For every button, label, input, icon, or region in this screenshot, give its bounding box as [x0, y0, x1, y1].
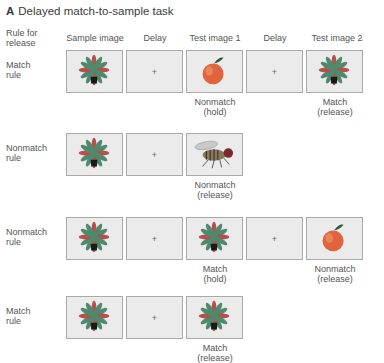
response-caption: Nonmatch(release) [300, 264, 370, 284]
rule-label-line: rule [6, 153, 47, 163]
stimulus-box-plant-image [66, 50, 123, 93]
col-header-test-2: Test image 2 [306, 33, 368, 43]
response-caption: Match(release) [180, 343, 250, 363]
col-header-delay-1: Delay [126, 33, 184, 43]
stimulus-box-fixation-cross: + [126, 217, 183, 260]
col-header-delay-2: Delay [246, 33, 304, 43]
stimulus-box-plant-image [66, 296, 123, 339]
fixation-cross-icon: + [152, 66, 157, 76]
stimulus-box-apple-image [186, 50, 243, 93]
caption-line: (hold) [180, 107, 250, 117]
rule-label-line: Nonmatch [6, 227, 47, 237]
rule-label: Matchrule [6, 306, 31, 326]
caption-line: (hold) [180, 274, 250, 284]
response-caption: Match(hold) [180, 264, 250, 284]
stimulus-box-apple-image [306, 217, 363, 260]
caption-line: (release) [300, 274, 370, 284]
rule-label: Nonmatchrule [6, 143, 47, 163]
stimulus-box-fixation-cross: + [246, 217, 303, 260]
rule-label-line: rule [6, 316, 31, 326]
caption-line: (release) [180, 190, 250, 200]
stimulus-box-plant-image [306, 50, 363, 93]
caption-line: Match [180, 343, 250, 353]
response-caption: Nonmatch(hold) [180, 97, 250, 117]
stimulus-box-fixation-cross: + [126, 133, 183, 176]
caption-line: (release) [300, 107, 370, 117]
rule-header-line: Rule for [6, 28, 38, 38]
rule-header: Rule for release [6, 28, 38, 48]
stimulus-box-plant-image [66, 133, 123, 176]
stimulus-box-plant-image [186, 217, 243, 260]
rule-label: Nonmatchrule [6, 227, 47, 247]
caption-line: Nonmatch [180, 180, 250, 190]
title-text: Delayed match-to-sample task [18, 5, 173, 17]
rule-label-line: rule [6, 237, 47, 247]
stimulus-box-fixation-cross: + [246, 50, 303, 93]
response-caption: Match(release) [300, 97, 370, 117]
caption-line: Match [180, 264, 250, 274]
stimulus-box-fixation-cross: + [126, 296, 183, 339]
stimulus-box-plant-image [186, 296, 243, 339]
col-header-test-1: Test image 1 [186, 33, 244, 43]
fixation-cross-icon: + [152, 312, 157, 322]
rule-label-line: Match [6, 306, 31, 316]
rule-label-line: rule [6, 70, 31, 80]
fixation-cross-icon: + [152, 233, 157, 243]
figure-title: ADelayed match-to-sample task [6, 5, 174, 17]
fixation-cross-icon: + [152, 149, 157, 159]
caption-line: Match [300, 97, 370, 107]
rule-label-line: Match [6, 60, 31, 70]
rule-label: Matchrule [6, 60, 31, 80]
col-header-sample: Sample image [66, 33, 124, 43]
response-caption: Nonmatch(release) [180, 180, 250, 200]
stimulus-box-plant-image [66, 217, 123, 260]
caption-line: Nonmatch [180, 97, 250, 107]
stimulus-box-fixation-cross: + [126, 50, 183, 93]
rule-label-line: Nonmatch [6, 143, 47, 153]
fixation-cross-icon: + [272, 233, 277, 243]
caption-line: Nonmatch [300, 264, 370, 274]
rule-header-line: release [6, 38, 38, 48]
stimulus-box-fly-image [186, 133, 243, 176]
caption-line: (release) [180, 353, 250, 363]
fixation-cross-icon: + [272, 66, 277, 76]
panel-letter: A [6, 5, 14, 17]
